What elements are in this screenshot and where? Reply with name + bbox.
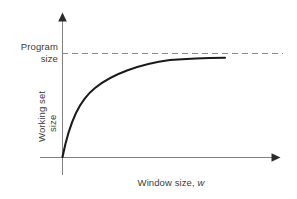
x-axis-title-text: Window size, — [138, 177, 198, 188]
program-size-label: Program size — [0, 41, 58, 64]
program-size-label-line1: Program — [0, 41, 58, 53]
y-axis-title-line2: size — [47, 115, 59, 132]
y-axis-title-line1: Working set — [36, 91, 48, 142]
working-set-curve — [63, 58, 226, 157]
x-axis-title: Window size, w — [62, 177, 280, 189]
x-axis-title-variable: w — [197, 177, 204, 188]
y-axis-title: Working set size — [0, 70, 48, 150]
program-size-label-line2: size — [0, 53, 58, 65]
y-axis-arrow-icon — [58, 13, 67, 22]
x-axis-arrow-icon — [272, 153, 281, 162]
working-set-size-figure: Program size Working set size Window siz… — [0, 0, 297, 199]
